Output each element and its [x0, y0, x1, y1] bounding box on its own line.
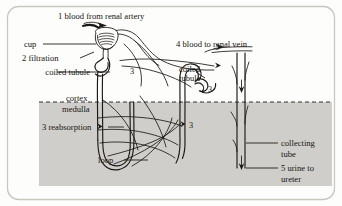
label-urine-to-ureter-line1: 5 urine to [281, 163, 314, 173]
label-medulla: medulla [62, 104, 90, 114]
bowmans-capsule-glomerulus [95, 27, 118, 58]
diagram-canvas: 1 blood from renal artery 4 blood to ren… [0, 0, 342, 206]
label-coiled-tubule-left: coiled tubule [45, 67, 90, 77]
nephron-diagram-figure: 1 blood from renal artery 4 blood to ren… [0, 0, 342, 206]
marker-3-upper-left: 3 [130, 67, 134, 76]
label-loop: loop [98, 155, 113, 165]
label-collecting-tube-line1: collecting [281, 138, 316, 148]
label-filtration: 2 filtration [22, 53, 59, 63]
label-cortex: cortex [66, 93, 88, 103]
label-blood-from-renal-artery: 1 blood from renal artery [58, 11, 145, 21]
label-urine-to-ureter-line2: ureter [281, 174, 301, 184]
label-reabsorption: 3 reabsorption [42, 122, 92, 132]
label-blood-to-renal-vein: 4 blood to renal vein [176, 39, 248, 49]
label-collecting-tube-line2: tube [281, 149, 296, 159]
marker-3-upper-right: 3 [208, 85, 212, 94]
label-cup: cup [24, 39, 36, 49]
label-coiled-tubule-right-line2: tubule [179, 73, 201, 83]
marker-3-lower-right: 3 [189, 121, 193, 130]
leader-filtration [80, 52, 94, 58]
